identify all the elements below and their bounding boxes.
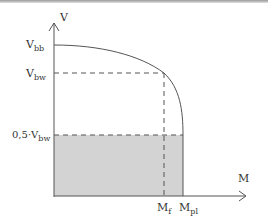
diagram-canvas: V M Vbb Vbw 0,5·Vbw Mf Mpl: [0, 0, 268, 224]
y-axis-label: V: [59, 11, 69, 24]
x-axis-label: M: [238, 172, 249, 185]
vbb-label: Vbb: [25, 38, 44, 53]
half-vbw-label: 0,5·Vbw: [12, 129, 50, 143]
mpl-label: Mpl: [179, 201, 198, 216]
interaction-diagram: V M Vbb Vbw 0,5·Vbw Mf Mpl: [0, 0, 268, 224]
vbw-label: Vbw: [25, 67, 46, 82]
mf-label: Mf: [157, 201, 172, 216]
